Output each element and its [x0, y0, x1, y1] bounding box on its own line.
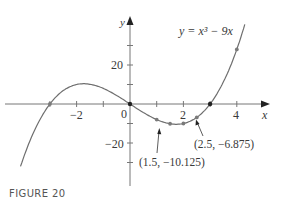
data-point: [128, 102, 132, 106]
data-point: [182, 122, 186, 126]
origin-label: 0: [121, 107, 127, 121]
x-axis: [5, 101, 270, 108]
y-axis-label: y: [119, 16, 125, 28]
data-point: [48, 102, 52, 106]
y-axis-arrow-icon: [127, 16, 134, 25]
equation-label: y = x³ − 9x: [178, 24, 233, 38]
y-tick-label: −20: [105, 137, 124, 151]
annotation-label: (1.5, −10.125): [139, 156, 205, 169]
data-point: [235, 48, 239, 52]
annotation-label: (2.5, −6.875): [194, 138, 254, 151]
data-point: [195, 116, 199, 120]
x-axis-arrow-icon: [261, 101, 270, 108]
data-point: [208, 102, 212, 106]
x-tick-label: −2: [70, 108, 83, 122]
arrowhead-icon: [196, 120, 200, 126]
x-tick-label: 2: [180, 108, 186, 122]
figure-caption: FIGURE 20: [9, 188, 66, 199]
x-tick-label: 4: [233, 108, 239, 122]
y-axis: [127, 16, 134, 186]
data-point: [155, 118, 159, 122]
arrowhead-icon: [157, 128, 161, 134]
y-tick-label: 20: [111, 58, 123, 72]
data-point: [168, 122, 172, 126]
function-plot: y x 0 −2 2 4 20 −20 y = x³ − 9x (1.5, −1…: [0, 0, 284, 207]
x-axis-label: x: [261, 108, 268, 122]
